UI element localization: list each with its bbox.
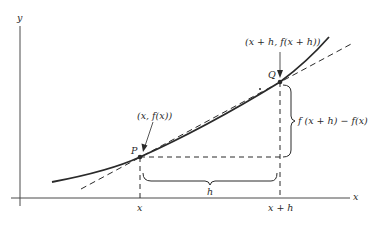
q-arrow-head-icon xyxy=(277,70,283,78)
point-p-coordinates: (x, f(x)) xyxy=(137,111,172,121)
point-q xyxy=(278,80,283,85)
point-q-coordinates: (x + h, f(x + h)) xyxy=(245,37,320,47)
difference-label: f (x + h) − f(x) xyxy=(298,116,368,126)
h-label: h xyxy=(207,187,213,197)
h-brace xyxy=(143,173,277,185)
point-p-label: P xyxy=(131,146,137,156)
p-arrow-shaft xyxy=(145,122,153,146)
x-axis-label: x xyxy=(353,192,358,202)
p-arrow-head-icon xyxy=(142,144,148,153)
point-p xyxy=(138,155,143,160)
point-q-label: Q xyxy=(268,70,276,80)
secant-diagram: y x P Q (x, f(x)) (x + h, f(x + h)) x x … xyxy=(0,0,374,229)
small-dot xyxy=(259,88,261,90)
x-tick-label: x xyxy=(137,203,142,213)
y-axis-label: y xyxy=(17,13,22,23)
function-curve xyxy=(52,37,329,182)
x-plus-h-tick-label: x + h xyxy=(268,203,293,213)
difference-brace xyxy=(283,85,295,157)
